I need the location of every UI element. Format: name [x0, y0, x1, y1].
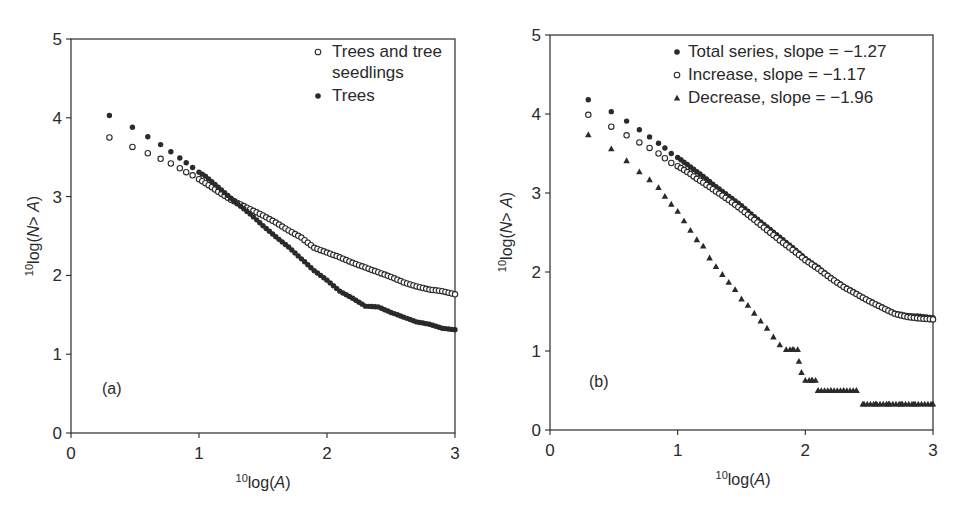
data-point	[770, 334, 777, 340]
data-point	[694, 236, 701, 242]
series-trees-and-tree-seedlings	[107, 135, 458, 297]
figure: 012345 0123 Trees and treeseedlingsTrees…	[0, 0, 961, 516]
data-point	[700, 243, 707, 249]
data-point	[636, 168, 643, 174]
data-point	[168, 161, 173, 166]
data-point	[190, 165, 195, 170]
data-point	[662, 145, 667, 150]
data-point	[608, 146, 615, 152]
data-point	[637, 127, 642, 132]
data-point	[796, 358, 803, 364]
x-tick-label: 1	[673, 441, 682, 460]
data-point	[738, 296, 745, 302]
y-axis-ticks: 012345	[532, 26, 550, 440]
data-point	[777, 341, 784, 347]
data-point	[145, 151, 150, 156]
data-point	[107, 135, 112, 140]
panel-b-change-series-chart: 012345 0123 Total series, slope = −1.27I…	[496, 26, 938, 488]
data-point	[623, 157, 630, 163]
filled-circle-legend-icon	[674, 49, 680, 55]
data-point	[706, 255, 713, 261]
legend-label: Decrease, slope = −1.96	[688, 88, 873, 107]
legend-item: Increase, slope = −1.17	[674, 65, 865, 84]
legend: Trees and treeseedlingsTrees	[315, 42, 442, 105]
y-axis-ticks: 012345	[53, 30, 71, 443]
data-point	[655, 184, 662, 190]
legend-label: seedlings	[332, 63, 404, 82]
filled-triangle-legend-icon	[674, 95, 681, 101]
series-total-series	[586, 97, 936, 320]
series-decrease	[585, 131, 936, 406]
data-point	[184, 169, 189, 174]
y-axis-title: 10log(N> A)	[23, 196, 42, 276]
x-tick-label: 0	[545, 441, 554, 460]
x-axis-ticks: 0123	[66, 433, 459, 463]
series-increase	[586, 112, 936, 322]
data-point	[168, 149, 173, 154]
data-point	[145, 134, 150, 139]
data-series	[107, 113, 458, 333]
figure-canvas: 012345 0123 Trees and treeseedlingsTrees…	[0, 0, 961, 516]
data-point	[656, 141, 661, 146]
open-circle-legend-icon	[315, 49, 321, 55]
data-point	[586, 97, 591, 102]
data-point	[647, 134, 652, 139]
data-point	[624, 118, 629, 123]
x-tick-label: 2	[322, 444, 331, 463]
data-point	[798, 369, 805, 375]
data-point	[624, 133, 629, 138]
legend-label: Total series, slope = −1.27	[688, 42, 886, 61]
data-point	[107, 113, 112, 118]
data-point	[764, 325, 771, 331]
filled-circle-legend-icon	[315, 93, 321, 99]
data-point	[681, 217, 688, 223]
legend-label: Trees and tree	[332, 42, 442, 61]
panel-label: (b)	[589, 373, 609, 390]
panel-a-trees-chart: 012345 0123 Trees and treeseedlingsTrees…	[23, 30, 460, 491]
y-tick-label: 2	[532, 263, 541, 282]
y-tick-label: 5	[532, 26, 541, 45]
x-tick-label: 3	[450, 444, 459, 463]
legend-label: Trees	[332, 86, 375, 105]
y-tick-label: 1	[53, 345, 62, 364]
x-tick-label: 3	[928, 441, 937, 460]
data-point	[609, 109, 614, 114]
data-series	[585, 97, 936, 406]
data-point	[662, 193, 669, 199]
data-point	[609, 124, 614, 129]
data-point	[669, 151, 674, 156]
legend-item: Total series, slope = −1.27	[674, 42, 886, 61]
y-tick-label: 4	[532, 105, 541, 124]
data-point	[745, 302, 752, 308]
x-axis-title: 10log(A)	[236, 472, 291, 491]
y-tick-label: 5	[53, 30, 62, 49]
legend-item: Decrease, slope = −1.96	[674, 88, 873, 107]
data-point	[184, 160, 189, 165]
y-tick-label: 0	[53, 424, 62, 443]
data-point	[687, 227, 694, 233]
legend-label: Increase, slope = −1.17	[688, 65, 866, 84]
data-point	[646, 176, 653, 182]
y-tick-label: 2	[53, 266, 62, 285]
y-tick-label: 3	[532, 184, 541, 203]
data-point	[930, 317, 935, 322]
data-point	[656, 151, 661, 156]
y-tick-label: 0	[532, 421, 541, 440]
data-point	[713, 263, 720, 269]
data-point	[751, 310, 758, 316]
data-point	[452, 327, 457, 332]
panel-label: (a)	[102, 380, 122, 397]
x-axis-ticks: 0123	[545, 430, 937, 460]
x-tick-label: 1	[194, 444, 203, 463]
data-point	[586, 112, 591, 117]
data-point	[732, 286, 739, 292]
data-point	[177, 155, 182, 160]
data-point	[158, 156, 163, 161]
y-tick-label: 1	[532, 342, 541, 361]
legend: Total series, slope = −1.27Increase, slo…	[674, 42, 887, 107]
data-point	[637, 140, 642, 145]
x-tick-label: 0	[66, 444, 75, 463]
data-point	[130, 125, 135, 130]
data-point	[585, 131, 592, 137]
y-tick-label: 3	[53, 188, 62, 207]
